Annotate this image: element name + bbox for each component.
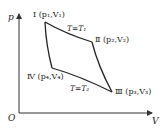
x-axis-label: V bbox=[152, 117, 159, 126]
state-label-1: Ⅰ (p₁,V₁) bbox=[33, 11, 65, 19]
isotherm-t1-label: T=T₁ bbox=[67, 25, 86, 33]
state-label-2: Ⅱ (p₂,V₂) bbox=[95, 36, 129, 44]
state-label-3: Ⅲ (p₃,V₃) bbox=[115, 88, 151, 96]
origin-label: O bbox=[8, 114, 15, 123]
isotherm-t2-label: T=T₂ bbox=[70, 85, 89, 93]
state-label-4: Ⅳ (p₄,V₄) bbox=[27, 73, 64, 81]
y-axis-label: p bbox=[8, 13, 14, 22]
pv-diagram: p V O Ⅰ (p₁,V₁) Ⅱ (p₂,V₂) Ⅲ (p₃,V₃) Ⅳ (p… bbox=[0, 0, 164, 136]
diagram-canvas bbox=[0, 0, 164, 136]
process-adiabat-4-1 bbox=[45, 22, 52, 68]
